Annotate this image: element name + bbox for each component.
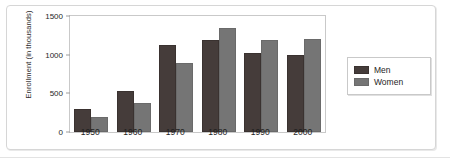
y-axis-tick-label: 1500	[45, 12, 63, 21]
plot-area: 050010001500	[69, 15, 326, 133]
bar-men-1980	[202, 40, 219, 132]
bar-group	[155, 16, 198, 132]
legend-swatch-women-icon	[354, 78, 369, 86]
bar-group	[283, 16, 326, 132]
y-axis-tick: 1500	[45, 12, 70, 21]
x-axis-label-1980: 1980	[208, 127, 227, 137]
y-axis-tick-label: 1000	[45, 50, 63, 59]
chart-container: Enrollment (in thousands) 050010001500 1…	[6, 5, 436, 150]
bar-men-2000	[287, 55, 304, 132]
x-axis-label-1960: 1960	[123, 127, 142, 137]
bars-layer	[70, 16, 325, 132]
bar-group	[240, 16, 283, 132]
x-axis-label-1990: 1990	[251, 127, 270, 137]
y-axis-tick-label: 0	[59, 128, 63, 137]
bar-men-1960	[117, 91, 134, 132]
y-axis-tick: 0	[59, 128, 70, 137]
legend-item-men: Men	[354, 65, 424, 75]
bar-men-1970	[159, 45, 176, 132]
y-axis-title: Enrollment (in thousands)	[24, 0, 33, 110]
bar-group	[113, 16, 156, 132]
bar-men-1990	[244, 53, 261, 132]
x-axis-label-2000: 2000	[293, 127, 312, 137]
bar-women-2000	[304, 39, 321, 132]
y-axis-tick: 500	[50, 89, 70, 98]
y-axis-tick-label: 500	[50, 89, 63, 98]
bar-women-1990	[261, 40, 278, 132]
legend-label-women: Women	[374, 77, 403, 87]
bar-women-1980	[219, 28, 236, 132]
legend-label-men: Men	[374, 65, 391, 75]
x-axis-label-1950: 1950	[81, 127, 100, 137]
bar-women-1970	[176, 63, 193, 132]
chart-legend: Men Women	[347, 57, 431, 95]
legend-item-women: Women	[354, 77, 424, 87]
page-divider	[0, 157, 450, 158]
bar-group	[70, 16, 113, 132]
bar-group	[198, 16, 241, 132]
legend-swatch-men-icon	[354, 66, 369, 74]
y-axis-tick: 1000	[45, 50, 70, 59]
x-axis-label-1970: 1970	[166, 127, 185, 137]
